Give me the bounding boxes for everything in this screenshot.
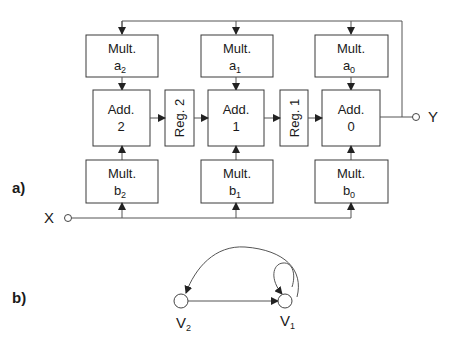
add-2-index: 2 (117, 119, 124, 134)
input-terminal (65, 215, 72, 222)
mult-b0-title: Mult. (337, 166, 365, 181)
add-0-index: 0 (347, 119, 354, 134)
output-label-y: Y (428, 108, 438, 125)
add-0-title: Add. (338, 102, 365, 117)
node-v2-label: V2 (176, 314, 191, 333)
reg-2-block: Reg. 2 (165, 90, 194, 146)
output-terminal (413, 114, 420, 121)
part-a: Mult. a2 Mult. a1 Mult. a0 Add. 2 Add. 1 (12, 21, 438, 226)
mult-a1-block: Mult. a1 (201, 35, 273, 77)
edge-v1-to-v2 (186, 247, 298, 297)
mult-b0-block: Mult. b0 (315, 160, 388, 203)
mult-a0-title: Mult. (337, 41, 365, 56)
input-label-x: X (44, 209, 54, 226)
add-1-index: 1 (232, 119, 239, 134)
edge-v1-self-loop (274, 263, 294, 294)
iir-filter-diagram: Mult. a2 Mult. a1 Mult. a0 Add. 2 Add. 1 (0, 0, 450, 344)
mult-a2-block: Mult. a2 (86, 35, 158, 77)
mult-b1-block: Mult. b1 (201, 160, 273, 203)
mult-b2-block: Mult. b2 (86, 160, 158, 203)
node-v1 (278, 294, 292, 308)
mult-a2-title: Mult. (108, 41, 136, 56)
part-b: b) V2 V1 (12, 247, 298, 333)
node-v1-label: V1 (280, 312, 295, 331)
add-0-block: Add. 0 (322, 90, 380, 146)
part-a-label: a) (12, 179, 25, 196)
add-1-title: Add. (223, 102, 250, 117)
add-2-block: Add. 2 (93, 90, 150, 146)
mult-a0-block: Mult. a0 (315, 35, 388, 77)
reg-1-block: Reg. 1 (280, 90, 308, 146)
reg-1-label: Reg. 1 (287, 99, 302, 137)
mult-a1-title: Mult. (223, 41, 251, 56)
reg-2-label: Reg. 2 (172, 99, 187, 137)
node-v2 (174, 294, 188, 308)
mult-b2-title: Mult. (108, 166, 136, 181)
add-2-title: Add. (108, 102, 135, 117)
input-bus (72, 203, 351, 218)
mult-b1-title: Mult. (223, 166, 251, 181)
part-b-label: b) (12, 289, 26, 306)
add-1-block: Add. 1 (208, 90, 264, 146)
